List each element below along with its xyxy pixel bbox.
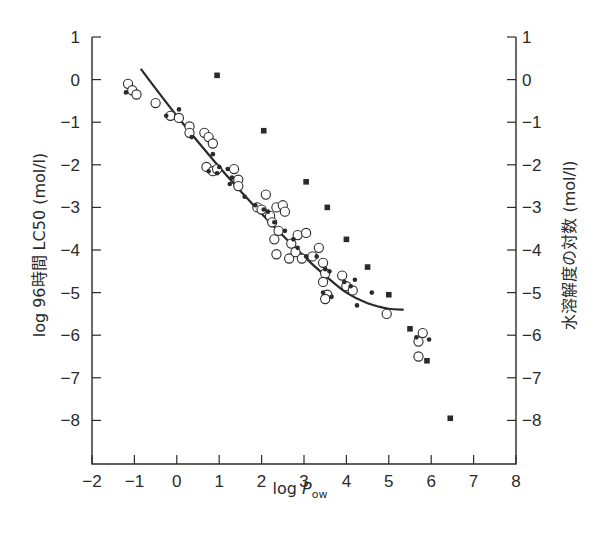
x-axis-title: log Pow (273, 479, 328, 501)
filled-dot-marker (353, 278, 358, 283)
y-right-tick-label: −4 (522, 241, 541, 260)
x-tick-label: 1 (214, 472, 223, 491)
y-axis-right: 10−1−2−3−4−5−6−7−8 (507, 28, 541, 430)
filled-dot-marker (323, 267, 328, 272)
y-right-tick-label: 1 (522, 28, 531, 47)
x-tick-label: 7 (469, 472, 478, 491)
filled-dot-marker (342, 280, 347, 285)
open-circle-marker (338, 271, 347, 280)
open-circle-marker (302, 228, 311, 237)
open-circle-marker (208, 139, 217, 148)
y-left-tick-label: −7 (61, 369, 80, 388)
open-circle-marker (234, 182, 243, 191)
open-circle-marker (270, 235, 279, 244)
filled-dot-marker (283, 229, 288, 234)
y-left-tick-label: −4 (61, 241, 80, 260)
filled-dot-marker (228, 182, 233, 187)
filled-dot-marker (189, 135, 194, 140)
open-circle-marker (414, 352, 423, 361)
x-tick-label: 4 (342, 472, 351, 491)
series-filled-dot (124, 90, 432, 342)
filled-dot-marker (217, 165, 222, 170)
open-circle-marker (132, 90, 141, 99)
filled-dot-marker (225, 167, 230, 172)
filled-dot-marker (164, 114, 169, 119)
filled-square-marker (303, 179, 309, 185)
filled-dot-marker (348, 284, 353, 289)
filled-dot-marker (291, 237, 296, 242)
open-circle-marker (318, 277, 327, 286)
filled-dot-marker (414, 335, 419, 340)
y-axis-right-title: 水溶解度の対数 (mol/l) (560, 160, 579, 329)
x-tick-label: −1 (125, 472, 144, 491)
filled-dot-marker (266, 209, 271, 214)
open-circle-marker (229, 164, 238, 173)
y-axis-left-title: log 96時間 LC50 (mol/l) (30, 153, 49, 338)
x-tick-label: 6 (426, 472, 435, 491)
open-circle-marker (314, 243, 323, 252)
filled-square-marker (325, 205, 331, 211)
filled-square-marker (447, 415, 453, 421)
y-right-tick-label: −8 (522, 411, 541, 430)
filled-dot-marker (327, 269, 332, 274)
open-circle-marker (274, 226, 283, 235)
y-right-tick-label: −3 (522, 198, 541, 217)
open-circle-marker (318, 258, 327, 267)
filled-dot-marker (215, 171, 220, 176)
open-circle-marker (261, 190, 270, 199)
y-right-tick-label: −5 (522, 284, 541, 303)
filled-square-marker (261, 128, 267, 134)
open-circle-marker (418, 328, 427, 337)
filled-dot-marker (272, 220, 277, 225)
filled-square-marker (407, 326, 413, 332)
filled-dot-marker (314, 254, 319, 259)
filled-dot-marker (261, 207, 266, 212)
filled-dot-marker (242, 194, 247, 199)
filled-dot-marker (329, 295, 334, 300)
filled-dot-marker (370, 290, 375, 295)
filled-square-marker (365, 264, 371, 270)
y-right-tick-label: 0 (522, 71, 531, 90)
filled-square-marker (386, 292, 392, 298)
x-tick-label: −2 (82, 472, 101, 491)
y-left-tick-label: 0 (71, 71, 80, 90)
y-left-tick-label: −6 (61, 326, 80, 345)
filled-dot-marker (321, 290, 326, 295)
y-left-tick-label: −3 (61, 198, 80, 217)
filled-dot-marker (230, 175, 235, 180)
series-open-circle (123, 79, 427, 361)
open-circle-marker (280, 207, 289, 216)
y-right-tick-label: −1 (522, 113, 541, 132)
filled-square-marker (214, 73, 220, 79)
open-circle-marker (174, 113, 183, 122)
y-right-tick-label: −6 (522, 326, 541, 345)
filled-dot-marker (177, 107, 182, 112)
regression-line (141, 69, 404, 310)
y-left-tick-label: 1 (71, 28, 80, 47)
filled-dot-marker (427, 337, 432, 342)
series-filled-square (214, 73, 453, 422)
regression-curve (141, 69, 404, 310)
data-points (123, 73, 453, 422)
x-tick-label: 8 (511, 472, 520, 491)
y-axis-left: 10−1−2−3−4−5−6−7−8 (61, 28, 101, 430)
chart: −2−1012345678 10−1−2−3−4−5−6−7−8 10−1−2−… (0, 0, 610, 537)
open-circle-marker (382, 309, 391, 318)
x-tick-label: 5 (384, 472, 393, 491)
y-left-tick-label: −8 (61, 411, 80, 430)
y-right-tick-label: −2 (522, 156, 541, 175)
x-tick-label: 0 (172, 472, 181, 491)
filled-dot-marker (355, 303, 360, 308)
x-tick-label: 2 (257, 472, 266, 491)
filled-square-marker (424, 358, 430, 364)
filled-dot-marker (253, 203, 258, 208)
y-right-tick-label: −7 (522, 369, 541, 388)
filled-square-marker (344, 237, 350, 243)
y-left-tick-label: −5 (61, 284, 80, 303)
open-circle-marker (272, 250, 281, 259)
open-circle-marker (321, 294, 330, 303)
filled-dot-marker (206, 169, 211, 174)
open-circle-marker (151, 98, 160, 107)
y-left-tick-label: −2 (61, 156, 80, 175)
filled-dot-marker (124, 90, 129, 95)
